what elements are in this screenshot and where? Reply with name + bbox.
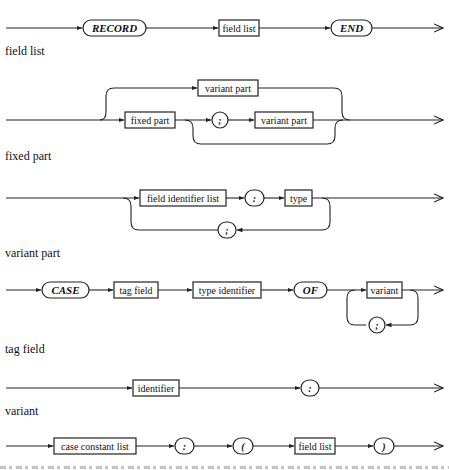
nonterminal-field-list-variant: field list <box>295 438 335 454</box>
diagram-tag-field: identifier : <box>6 380 443 396</box>
svg-text:identifier: identifier <box>138 383 175 394</box>
terminal-close-paren: ) <box>374 438 394 454</box>
diagram-field-list: variant part fixed part ; variant part <box>6 80 443 144</box>
terminal-end: END <box>331 20 372 36</box>
nonterminal-identifier: identifier <box>133 380 179 396</box>
diagram-record-type: RECORD field list END <box>6 20 443 36</box>
terminal-of: OF <box>294 282 327 298</box>
nonterminal-variant: variant <box>367 282 402 298</box>
svg-text:type: type <box>290 193 308 204</box>
nonterminal-field-list: field list <box>219 20 259 36</box>
svg-text:tag field: tag field <box>119 285 152 296</box>
nonterminal-variant-part-upper: variant part <box>198 80 258 96</box>
terminal-semicolon: ; <box>212 112 228 128</box>
diagram-variant-part: CASE tag field type identifier OF varian… <box>6 282 443 333</box>
nonterminal-fixed-part: fixed part <box>125 112 175 128</box>
svg-text:fixed part: fixed part <box>131 115 170 126</box>
terminal-record: RECORD <box>83 20 146 36</box>
svg-text:variant: variant <box>371 285 399 296</box>
terminal-open-paren: ( <box>233 438 253 454</box>
svg-text:field identifier list: field identifier list <box>147 193 219 204</box>
nonterminal-case-constant-list: case constant list <box>54 438 136 454</box>
terminal-record-text: RECORD <box>91 22 137 34</box>
svg-text:): ) <box>381 441 385 453</box>
diagram-fixed-part: field identifier list : type ; <box>6 190 443 238</box>
svg-text::: : <box>253 193 256 204</box>
svg-text:variant part: variant part <box>205 83 251 94</box>
syntax-diagrams: RECORD field list END field list variant… <box>0 0 449 470</box>
label-field-list: field list <box>5 44 45 58</box>
svg-text:field list: field list <box>298 441 331 452</box>
nonterminal-tag-field: tag field <box>114 282 158 298</box>
svg-text:CASE: CASE <box>51 284 79 296</box>
terminal-case: CASE <box>42 282 89 298</box>
terminal-semicolon-variant-loop: ; <box>369 317 385 333</box>
nonterminal-field-list-text: field list <box>222 23 255 34</box>
terminal-semicolon-loop: ; <box>218 222 236 238</box>
svg-text:case constant list: case constant list <box>61 441 129 452</box>
nonterminal-variant-part-lower: variant part <box>255 112 313 128</box>
svg-text:variant part: variant part <box>261 115 307 126</box>
label-variant: variant <box>5 404 39 418</box>
nonterminal-field-identifier-list: field identifier list <box>140 190 226 206</box>
nonterminal-type: type <box>285 190 312 206</box>
svg-text::: : <box>308 383 311 394</box>
diagram-variant: case constant list : ( field list ) <box>6 438 443 454</box>
svg-text:type identifier: type identifier <box>199 285 256 296</box>
terminal-colon: : <box>245 190 264 206</box>
nonterminal-type-identifier: type identifier <box>193 282 261 298</box>
svg-text:OF: OF <box>303 284 319 296</box>
truncated-text-line <box>0 463 449 470</box>
svg-text:;: ; <box>218 115 221 126</box>
svg-text::: : <box>183 441 186 452</box>
terminal-colon-tag: : <box>301 380 319 396</box>
svg-text:;: ; <box>225 225 228 236</box>
svg-text:;: ; <box>375 320 378 331</box>
terminal-colon-variant: : <box>175 438 194 454</box>
label-tag-field: tag field <box>5 342 45 356</box>
terminal-end-text: END <box>339 22 363 34</box>
label-variant-part: variant part <box>5 246 61 260</box>
label-fixed-part: fixed part <box>5 149 52 163</box>
